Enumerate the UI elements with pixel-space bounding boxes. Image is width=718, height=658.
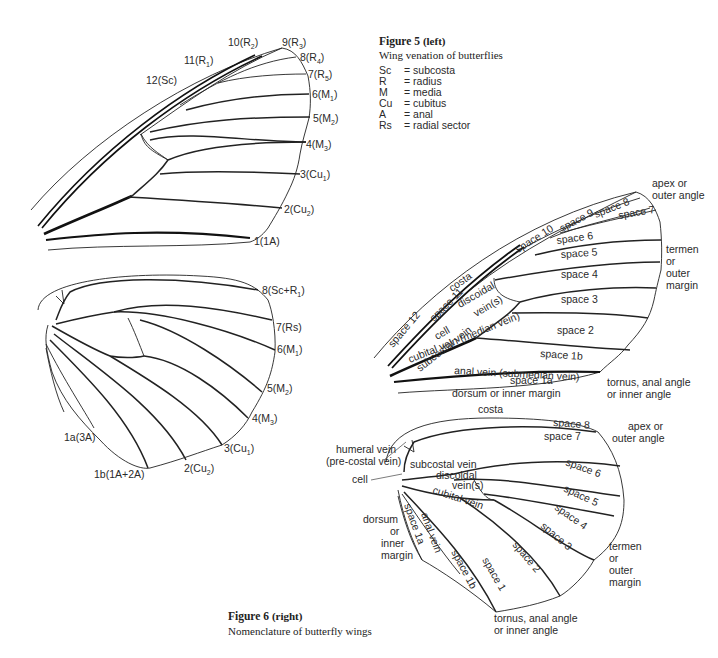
svg-text:5(M2): 5(M2) [267, 382, 293, 396]
svg-text:space 2: space 2 [557, 324, 594, 336]
fig6-caption: Figure 6 (right) Nomenclature of butterf… [228, 610, 372, 637]
svg-text:1a(3A): 1a(3A) [64, 431, 96, 443]
svg-text:or inner angle: or inner angle [607, 388, 671, 400]
svg-text:dorsum or inner margin: dorsum or inner margin [452, 387, 561, 399]
svg-text:or: or [390, 525, 400, 537]
svg-text:space 10: space 10 [513, 222, 556, 255]
svg-text:cubital vein (median vein): cubital vein (median vein) [406, 309, 521, 365]
svg-text:11(R1): 11(R1) [184, 54, 213, 68]
svg-text:or inner angle: or inner angle [494, 624, 558, 636]
svg-text:dorsum: dorsum [363, 513, 398, 525]
svg-text:termen: termen [666, 243, 699, 255]
svg-text:space 1: space 1 [480, 555, 509, 593]
svg-text:margin: margin [666, 279, 698, 291]
svg-text:space 4: space 4 [553, 501, 590, 532]
svg-text:termen: termen [609, 540, 642, 552]
svg-text:2(Cu2): 2(Cu2) [184, 462, 214, 476]
svg-text:space 3: space 3 [561, 293, 598, 305]
svg-text:outer angle: outer angle [612, 432, 665, 444]
svg-text:space 5: space 5 [560, 245, 598, 260]
svg-text:vein(s): vein(s) [452, 479, 484, 491]
svg-text:space 6: space 6 [564, 456, 603, 480]
svg-text:space 1b: space 1b [540, 347, 584, 362]
fig5-hindwing-labels: 8(Sc+R1) 7(Rs) 6(M1) 5(M2) 4(M3) 3(Cu1) … [64, 284, 305, 480]
svg-text:cell: cell [352, 473, 368, 485]
svg-text:space 7: space 7 [544, 430, 581, 442]
svg-text:space 1b: space 1b [449, 547, 480, 590]
svg-text:outer: outer [609, 564, 633, 576]
svg-text:outer: outer [666, 267, 690, 279]
svg-text:= radial sector: = radial sector [404, 119, 471, 131]
svg-text:2(Cu2): 2(Cu2) [284, 203, 314, 217]
svg-text:space 12: space 12 [385, 309, 422, 349]
svg-text:margin: margin [609, 576, 641, 588]
svg-text:or: or [609, 552, 619, 564]
svg-text:(pre-costal vein): (pre-costal vein) [326, 455, 401, 467]
svg-text:space 4: space 4 [561, 268, 598, 280]
svg-text:Wing venation of butterflies: Wing venation of butterflies [379, 49, 503, 61]
svg-text:costa: costa [478, 403, 503, 415]
svg-text:space 5: space 5 [562, 482, 601, 508]
svg-text:or: or [666, 255, 676, 267]
svg-text:8(R4): 8(R4) [300, 51, 324, 65]
svg-text:3(Cu1): 3(Cu1) [300, 168, 330, 182]
svg-text:4(M3): 4(M3) [306, 138, 332, 152]
svg-text:outer angle: outer angle [652, 189, 705, 201]
svg-text:7(Rs): 7(Rs) [276, 321, 302, 333]
figure-canvas: 10(R2) 9(R3) 11(R1) 8(R4) 12(Sc) 7(R5) 6… [0, 0, 718, 658]
svg-text:margin: margin [381, 549, 413, 561]
svg-text:3(Cu1): 3(Cu1) [224, 442, 254, 456]
svg-text:6(M1): 6(M1) [277, 343, 303, 357]
svg-text:inner: inner [381, 537, 405, 549]
svg-text:6(M1): 6(M1) [312, 88, 338, 102]
svg-text:9(R3): 9(R3) [282, 36, 306, 50]
svg-text:7(R5): 7(R5) [308, 68, 332, 82]
svg-text:4(M3): 4(M3) [252, 412, 278, 426]
svg-text:tornus, anal angle: tornus, anal angle [607, 376, 691, 388]
svg-text:10(R2): 10(R2) [228, 36, 258, 50]
svg-text:space 2: space 2 [510, 539, 543, 575]
svg-text:1b(1A+2A): 1b(1A+2A) [94, 468, 145, 480]
svg-text:humeral vein: humeral vein [336, 443, 396, 455]
svg-text:1(1A): 1(1A) [254, 235, 280, 247]
svg-text:tornus, anal angle: tornus, anal angle [494, 612, 578, 624]
svg-text:Figure 5 (left): Figure 5 (left) [379, 35, 446, 48]
fig5-legend: Sc= subcosta R= radius M= media Cu= cubi… [379, 64, 471, 131]
svg-text:8(Sc+R1): 8(Sc+R1) [262, 284, 305, 298]
fig5-caption: Figure 5 (left) Wing venation of butterf… [379, 35, 503, 131]
svg-text:Figure 6 (right): Figure 6 (right) [228, 610, 303, 623]
svg-text:12(Sc): 12(Sc) [146, 74, 177, 86]
fig6-hindwing-labels: costa space 8 space 7 space 6 space 5 sp… [326, 403, 665, 636]
svg-text:Rs: Rs [379, 119, 392, 131]
svg-text:apex or: apex or [628, 420, 664, 432]
svg-text:space 8: space 8 [553, 416, 591, 431]
svg-text:space 3: space 3 [539, 519, 575, 552]
svg-text:Nomenclature of butterfly wing: Nomenclature of butterfly wings [228, 625, 372, 637]
svg-text:apex or: apex or [652, 177, 688, 189]
svg-text:5(M2): 5(M2) [313, 112, 339, 126]
